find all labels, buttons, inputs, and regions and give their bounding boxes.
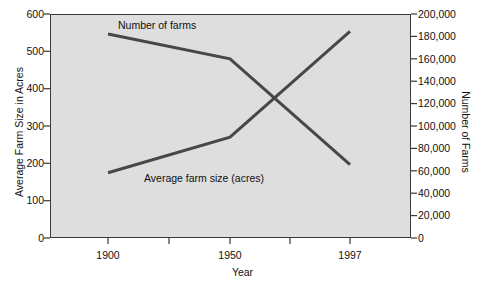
left-axis-title: Average Farm Size in Acres bbox=[13, 52, 25, 212]
right-tick-label-100000: 100,000 bbox=[418, 121, 456, 132]
right-tick-label-40000: 40,000 bbox=[418, 188, 450, 199]
left-tick-label-600: 600 bbox=[0, 9, 44, 20]
x-axis-title: Year bbox=[0, 266, 485, 278]
right-axis-title: Number of Farms bbox=[460, 52, 472, 212]
series-label-average-farm-size: Average farm size (acres) bbox=[144, 172, 264, 184]
series-label-number-of-farms: Number of farms bbox=[118, 19, 196, 31]
right-tick-label-200000: 200,000 bbox=[418, 9, 456, 20]
chart-figure: 600 500 400 300 200 100 0 200,000 180,00… bbox=[0, 0, 485, 286]
right-axis-ticks bbox=[411, 14, 417, 238]
right-tick-label-60000: 60,000 bbox=[418, 166, 450, 177]
plot-area bbox=[50, 14, 411, 238]
left-tick-label-0: 0 bbox=[0, 233, 44, 244]
x-axis-ticks bbox=[108, 238, 350, 244]
right-tick-label-20000: 20,000 bbox=[418, 210, 450, 221]
right-tick-label-80000: 80,000 bbox=[418, 143, 450, 154]
right-tick-label-160000: 160,000 bbox=[418, 54, 456, 65]
x-tick-label-1997: 1997 bbox=[320, 250, 380, 261]
x-tick-label-1900: 1900 bbox=[78, 250, 138, 261]
right-tick-label-120000: 120,000 bbox=[418, 98, 456, 109]
right-tick-label-140000: 140,000 bbox=[418, 76, 456, 87]
x-tick-label-1950: 1950 bbox=[200, 250, 260, 261]
right-tick-label-0: 0 bbox=[418, 233, 424, 244]
right-tick-label-180000: 180,000 bbox=[418, 31, 456, 42]
